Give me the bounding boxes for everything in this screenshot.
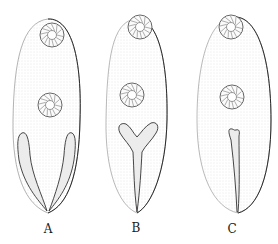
specimen-figure: A B C bbox=[0, 0, 278, 244]
coil-icon bbox=[220, 85, 244, 109]
specimen-c-body bbox=[197, 17, 271, 213]
coil-icon bbox=[38, 93, 62, 117]
label-b: B bbox=[132, 222, 141, 234]
label-a: A bbox=[44, 223, 53, 235]
coil-icon bbox=[120, 83, 144, 107]
label-c: C bbox=[227, 223, 236, 235]
specimen-b bbox=[106, 15, 167, 213]
coil-icon bbox=[219, 15, 243, 39]
coil-icon bbox=[128, 15, 152, 39]
specimen-a bbox=[13, 19, 80, 213]
illustration-canvas bbox=[0, 0, 278, 244]
coil-icon bbox=[40, 23, 64, 47]
specimen-c bbox=[197, 15, 271, 213]
